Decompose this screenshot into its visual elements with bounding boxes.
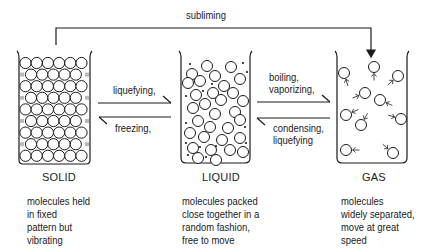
liquefying-label: liquefying, (113, 84, 156, 96)
gas-molecules (339, 62, 407, 159)
liquefying-gas-label: liquefying (273, 134, 313, 146)
liquid-description: molecules packed close together in a ran… (182, 195, 259, 247)
boiling-label: boiling, (269, 71, 299, 83)
solid-description: molecules held in fixed pattern but vibr… (27, 195, 90, 247)
subliming-label: subliming (186, 9, 226, 21)
subliming-arrow (56, 28, 375, 57)
liquefying-arrow (98, 96, 171, 103)
liquid-label: LIQUID (202, 171, 240, 183)
freezing-label: freezing, (115, 122, 151, 134)
gas-description: molecules widely separated, move at grea… (341, 195, 415, 247)
solid-label: SOLID (42, 171, 76, 183)
boiling-arrow (257, 95, 330, 102)
gas-label: GAS (362, 171, 386, 183)
condensing-label: condensing, (273, 122, 324, 134)
liquid-molecules (183, 61, 249, 166)
solid-molecules (20, 57, 88, 161)
vaporizing-label: vaporizing, (269, 83, 315, 95)
